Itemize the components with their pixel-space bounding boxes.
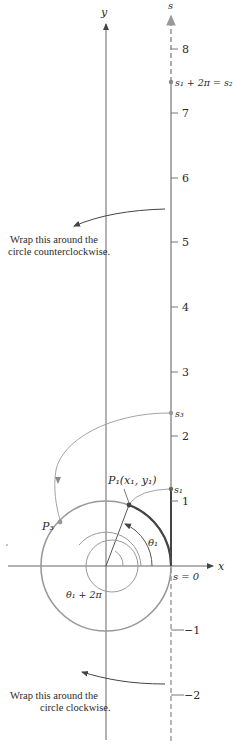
svg-text:−1: −1 [184, 624, 200, 637]
svg-text:8: 8 [182, 43, 189, 56]
radius-p1 [106, 505, 129, 566]
svg-text:1: 1 [182, 495, 189, 508]
svg-text:2: 2 [182, 430, 189, 443]
cw-arrow [82, 672, 165, 684]
s-zero-label: s = 0 [173, 571, 200, 582]
point-s2 [169, 80, 173, 84]
point-s1 [169, 487, 173, 491]
p1-label: P₁(x₁, y₁) [107, 474, 157, 487]
y-axis-label: y [100, 6, 108, 19]
theta1-plus-2pi-arc-small [115, 551, 123, 566]
theta1-plus-2pi-label: θ₁ + 2π [66, 589, 103, 600]
s1-to-p1-arc [130, 489, 169, 503]
s3-to-p3-curve [55, 413, 169, 520]
s2-label: s₁ + 2π = s₂ [175, 77, 233, 88]
svg-text:6: 6 [182, 172, 189, 185]
svg-text:−2: −2 [184, 689, 200, 702]
s-tick-labels: 8 7 6 5 4 3 2 1 −1 −2 [182, 43, 200, 702]
s3-curve-arrowhead [55, 477, 61, 484]
stray-dot [6, 544, 8, 546]
theta1-label: θ₁ [148, 537, 158, 548]
x-axis-label: x [218, 560, 225, 573]
point-p3 [58, 520, 63, 525]
ccw-note-line1: Wrap this around the [10, 234, 98, 245]
svg-text:5: 5 [182, 236, 189, 249]
svg-text:7: 7 [182, 107, 189, 120]
ccw-arrow [74, 209, 165, 226]
ccw-note-line2: circle counterclockwise. [8, 246, 110, 257]
point-p1 [127, 503, 132, 508]
arc-theta1 [129, 505, 171, 566]
cw-note-line2: circle clockwise. [40, 702, 111, 713]
point-s3 [169, 411, 173, 415]
wrapping-function-diagram: y x s 8 7 6 5 4 3 2 1 −1 −2 s = 0 [0, 0, 237, 750]
s-axis-label: s [168, 0, 173, 11]
s1-label: s₁ [174, 484, 183, 495]
s3-label: s₃ [175, 408, 184, 419]
p3-label: P₃ [41, 520, 54, 533]
svg-text:3: 3 [182, 366, 189, 379]
svg-text:4: 4 [182, 301, 189, 314]
cw-note-line1: Wrap this around the [10, 690, 98, 701]
p1-leader [124, 489, 129, 503]
